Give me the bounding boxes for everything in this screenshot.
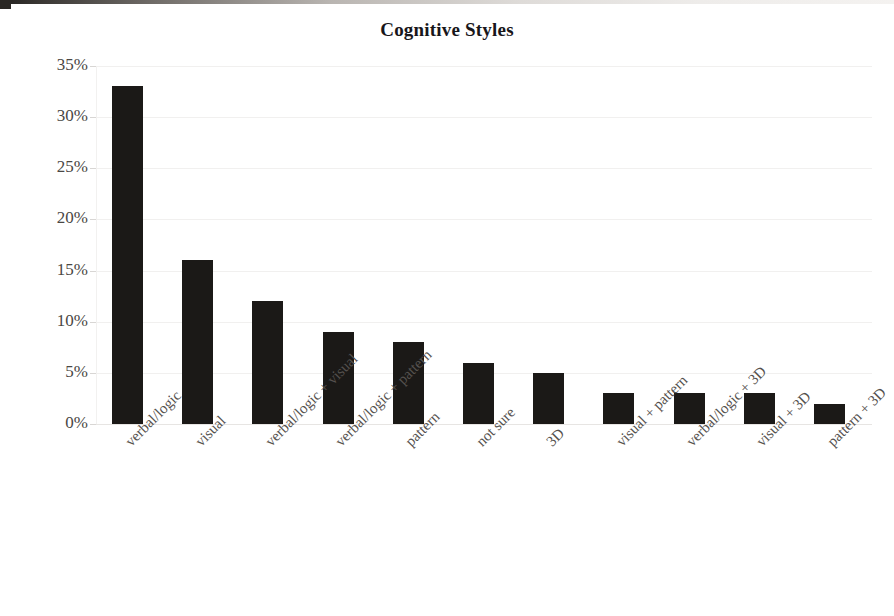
gridline-20	[96, 219, 872, 220]
y-tick-30	[90, 117, 96, 118]
y-tick-0	[90, 424, 96, 425]
bar-chart: Cognitive Styles verbal/logicvisualverba…	[0, 0, 894, 616]
y-tick-25	[90, 168, 96, 169]
x-axis-label: 3D	[543, 425, 568, 450]
gridline-30	[96, 117, 872, 118]
y-axis-label: 15%	[26, 260, 88, 280]
y-tick-5	[90, 373, 96, 374]
y-axis-label: 5%	[26, 362, 88, 382]
y-tick-35	[90, 66, 96, 67]
y-axis-label: 35%	[26, 55, 88, 75]
y-tick-15	[90, 271, 96, 272]
y-axis-label: 10%	[26, 311, 88, 331]
bar[interactable]	[463, 363, 494, 424]
y-axis-label: 0%	[26, 413, 88, 433]
y-tick-10	[90, 322, 96, 323]
chart-title: Cognitive Styles	[0, 19, 894, 41]
y-axis-label: 20%	[26, 208, 88, 228]
bar[interactable]	[533, 373, 564, 424]
bar[interactable]	[252, 301, 283, 424]
y-axis-label: 30%	[26, 106, 88, 126]
bar[interactable]	[182, 260, 213, 424]
gridline-35	[96, 66, 872, 67]
gridline-25	[96, 168, 872, 169]
y-tick-20	[90, 219, 96, 220]
bar[interactable]	[112, 86, 143, 424]
y-axis-label: 25%	[26, 157, 88, 177]
